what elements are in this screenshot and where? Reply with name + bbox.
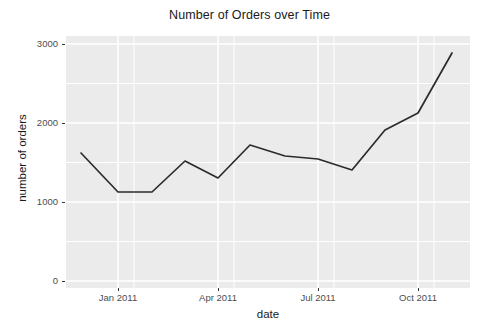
chart-figure: Number of Orders over Time xyxy=(0,0,499,332)
y-tick-mark-2000 xyxy=(62,123,65,124)
x-axis-title: date xyxy=(66,308,470,320)
y-tick-mark-3000 xyxy=(62,44,65,45)
x-tick-label-oct: Oct 2011 xyxy=(399,292,437,303)
plot-area-svg xyxy=(66,36,470,288)
y-axis-title: number of orders xyxy=(16,78,28,238)
y-tick-mark-1000 xyxy=(62,202,65,203)
x-tick-mark-apr xyxy=(218,288,219,291)
chart-title: Number of Orders over Time xyxy=(0,8,499,22)
grid-lines-minor xyxy=(66,36,470,288)
y-tick-label-0: 0 xyxy=(53,276,58,286)
x-tick-label-jan: Jan 2011 xyxy=(99,292,137,303)
x-tick-mark-jan xyxy=(118,288,119,291)
x-tick-label-jul: Jul 2011 xyxy=(300,292,335,303)
y-tick-label-2000: 2000 xyxy=(37,118,58,128)
y-tick-mark-0 xyxy=(62,281,65,282)
x-tick-mark-jul xyxy=(318,288,319,291)
x-tick-label-apr: Apr 2011 xyxy=(199,292,237,303)
y-tick-label-1000: 1000 xyxy=(37,197,58,207)
x-tick-mark-oct xyxy=(418,288,419,291)
y-tick-label-3000: 3000 xyxy=(37,39,58,49)
plot-panel xyxy=(66,36,470,288)
